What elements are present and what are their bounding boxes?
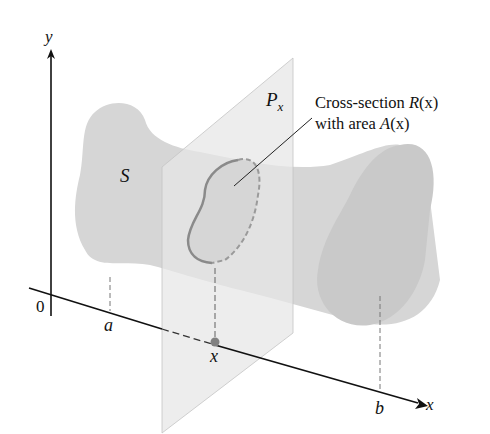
- x-axis-front: [29, 288, 162, 329]
- y-axis-label: y: [43, 27, 53, 46]
- tick-label-b: b: [375, 398, 384, 418]
- tick-label-a: a: [104, 315, 113, 335]
- origin-label: 0: [36, 297, 45, 316]
- annotation-line-2: with area A(x): [315, 114, 409, 133]
- tick-label-x: x: [209, 346, 218, 366]
- x-axis-label: x: [425, 395, 434, 414]
- cross-section-diagram: y x 0 S Px a x b Cross-section R(x) with…: [0, 0, 490, 434]
- annotation-line-1: Cross-section R(x): [315, 93, 438, 112]
- x-axis-back: [215, 345, 418, 403]
- solid-label-s: S: [120, 165, 130, 186]
